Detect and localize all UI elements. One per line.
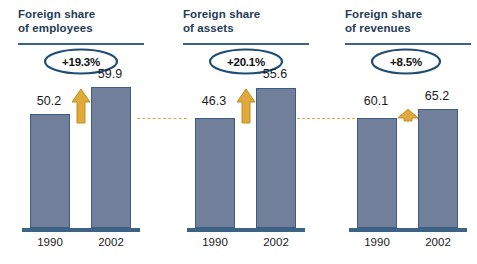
plot-area: 60.1 65.2 1990 2002: [345, 0, 477, 264]
bar-1990: [30, 114, 70, 228]
axis-label-2002: 2002: [250, 236, 302, 248]
chart-canvas: Foreign shareof employees +19.3% 50.2 59…: [0, 0, 477, 264]
bar-value-1990: 50.2: [23, 94, 75, 108]
bar-value-1990: 60.1: [350, 94, 402, 108]
bar-1990: [195, 118, 235, 228]
plot-area: 50.2 59.9 1990 2002: [18, 0, 158, 264]
axis-baseline: [187, 228, 305, 232]
up-arrow-icon: [396, 108, 420, 122]
bar-value-2002: 55.6: [249, 67, 301, 81]
axis-label-2002: 2002: [412, 236, 464, 248]
bar-2002: [418, 109, 458, 228]
badge-label: +8.5%: [390, 56, 422, 68]
bar-value-2002: 65.2: [411, 89, 463, 103]
panel-foreign-share-of-employees: Foreign shareof employees +19.3% 50.2 59…: [18, 0, 158, 264]
axis-label-1990: 1990: [351, 236, 403, 248]
up-arrow-icon: [71, 88, 91, 124]
axis-label-1990: 1990: [189, 236, 241, 248]
up-arrow-icon: [236, 88, 256, 124]
axis-label-2002: 2002: [85, 236, 137, 248]
plot-area: 46.3 55.6 1990 2002: [183, 0, 323, 264]
bar-value-2002: 59.9: [84, 67, 136, 81]
axis-label-1990: 1990: [24, 236, 76, 248]
panel-foreign-share-of-revenues: Foreign shareof revenues +8.5% 60.1 65.2…: [345, 0, 477, 264]
axis-baseline: [22, 228, 140, 232]
bar-value-1990: 46.3: [188, 94, 240, 108]
bar-2002: [256, 88, 296, 228]
axis-baseline: [349, 228, 467, 232]
bar-1990: [357, 118, 397, 228]
badge-label: +19.3%: [62, 56, 100, 68]
bar-2002: [91, 87, 131, 228]
badge-label: +20.1%: [227, 56, 265, 68]
panel-foreign-share-of-assets: Foreign shareof assets +20.1% 46.3 55.6 …: [183, 0, 323, 264]
